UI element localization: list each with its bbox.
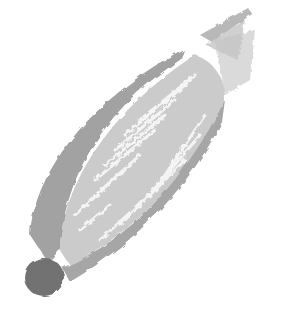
corn-stem bbox=[24, 258, 64, 296]
corn-cob-illustration bbox=[0, 0, 282, 318]
corn-illustration-canvas bbox=[0, 0, 282, 318]
